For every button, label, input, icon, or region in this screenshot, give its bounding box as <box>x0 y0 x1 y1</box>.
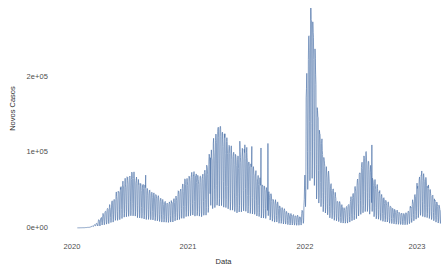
y-axis-tick-0: 0e+00 <box>0 224 48 232</box>
x-axis-tick-2022: 2022 <box>285 243 325 251</box>
plot-area <box>56 8 441 236</box>
x-axis-tick-2021: 2021 <box>168 243 208 251</box>
y-axis-title: Novos Casos <box>8 79 17 139</box>
covid-new-cases-chart: Novos Casos 2e+05 1e+05 0e+00 2020 2021 … <box>0 0 447 277</box>
x-axis-tick-2023: 2023 <box>397 243 437 251</box>
x-axis-tick-2020: 2020 <box>52 243 92 251</box>
y-axis-tick-200k: 2e+05 <box>0 73 48 81</box>
new-cases-line-series <box>56 8 441 236</box>
y-axis-tick-100k: 1e+05 <box>0 148 48 156</box>
series-path <box>78 8 441 228</box>
x-axis-title: Data <box>0 257 447 266</box>
